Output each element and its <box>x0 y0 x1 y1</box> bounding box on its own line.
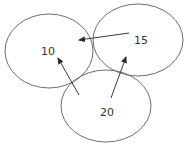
arrow-icon-n15-to-n10 <box>79 33 129 40</box>
diagram-canvas: 101520 <box>0 0 185 148</box>
node-label-20: 20 <box>100 106 114 119</box>
arrow-icon-n20-to-n10 <box>58 58 79 95</box>
nodes-layer <box>5 4 183 142</box>
arrow-icon-n20-to-n15 <box>111 57 126 98</box>
node-label-15: 15 <box>134 34 148 47</box>
node-label-10: 10 <box>41 45 55 58</box>
